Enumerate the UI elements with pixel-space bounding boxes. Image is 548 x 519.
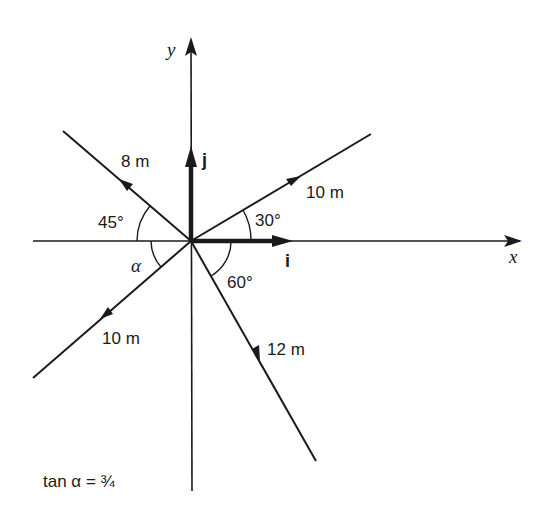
unit-vector-i <box>191 235 293 247</box>
arc-alpha <box>151 241 161 267</box>
y-axis-label: y <box>165 39 176 60</box>
i-label: i <box>285 251 290 271</box>
j-label: j <box>201 150 207 170</box>
unit-vector-j <box>185 146 197 241</box>
arc-30 <box>243 210 251 241</box>
x-axis-label: x <box>508 246 518 267</box>
angle-alpha-label: α <box>131 255 142 276</box>
vector-12m-arrow-icon <box>252 345 260 361</box>
vector-12m-label: 12 m <box>267 340 305 359</box>
i-arrow-icon <box>272 235 293 247</box>
angle-60-label: 60° <box>227 273 253 292</box>
vector-8m <box>63 131 191 241</box>
vector-diagram: y x j i 8 m 10 m 10 m 12 m 45° 30° 60° α… <box>0 0 548 519</box>
vector-10m-lower-arrow-icon <box>100 307 113 319</box>
vector-10m-upper-arrow-icon <box>286 176 301 186</box>
y-axis <box>185 37 197 491</box>
vector-10m-lower <box>33 241 191 378</box>
tan-alpha-note: tan α = ¾ <box>43 472 116 491</box>
arc-45 <box>137 206 150 241</box>
vector-10m-upper-label: 10 m <box>306 183 344 202</box>
arc-60 <box>211 241 231 276</box>
vector-10m-lower-label: 10 m <box>102 329 140 348</box>
vector-10m-upper <box>191 134 371 241</box>
j-arrow-icon <box>185 146 197 167</box>
angle-45-label: 45° <box>98 213 124 232</box>
vector-8m-label: 8 m <box>121 152 149 171</box>
angle-30-label: 30° <box>255 211 281 230</box>
